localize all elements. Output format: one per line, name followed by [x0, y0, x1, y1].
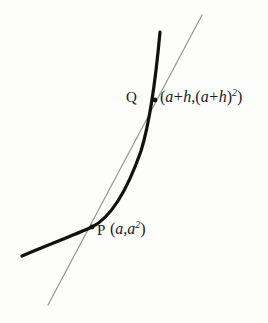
point-coordinates-q: (a+h,(a+h)2)	[160, 89, 242, 105]
q-paren-close: )	[237, 88, 242, 105]
p-paren-close: )	[140, 220, 145, 237]
q-x-operator: +	[173, 88, 183, 105]
point-label-q: Q	[126, 90, 137, 105]
point-coordinates-p: (a,a2)	[110, 221, 146, 237]
figure-canvas: Q (a+h,(a+h)2) P (a,a2)	[0, 0, 268, 323]
q-y-base: a	[201, 88, 209, 105]
point-marker-q	[153, 98, 158, 103]
q-y-operator: +	[209, 88, 219, 105]
diagram-svg	[0, 0, 268, 323]
q-y-term: h	[219, 88, 227, 105]
point-label-p: P	[97, 223, 105, 238]
point-marker-p	[90, 225, 95, 230]
secant-line	[48, 15, 202, 305]
